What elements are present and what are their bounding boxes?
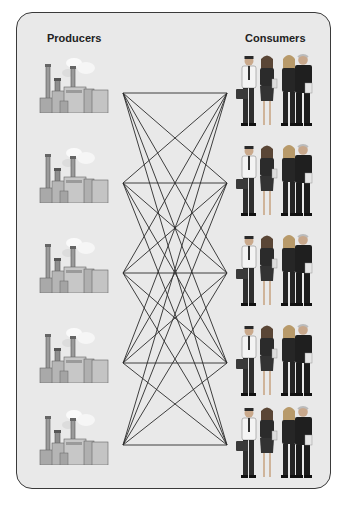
factory-icon bbox=[38, 325, 110, 383]
people-group-icon bbox=[236, 143, 316, 221]
factory-icon bbox=[38, 235, 110, 293]
factory-icon bbox=[38, 55, 110, 113]
factory-icon bbox=[38, 145, 110, 203]
people-group-icon bbox=[236, 53, 316, 131]
people-group-icon bbox=[236, 405, 316, 483]
factory-icon bbox=[38, 407, 110, 465]
people-group-icon bbox=[236, 233, 316, 311]
people-group-icon bbox=[236, 323, 316, 401]
